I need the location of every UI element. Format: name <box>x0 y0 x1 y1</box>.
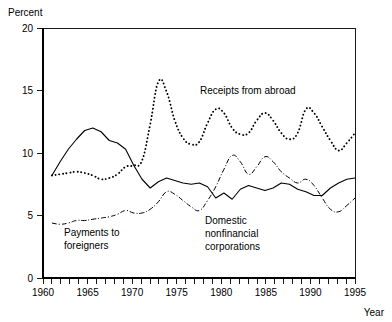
annotation-domestic-line1: Domestic <box>205 215 247 226</box>
y-tick-label-15: 15 <box>22 85 34 96</box>
x-tick-label-1990: 1990 <box>299 287 322 298</box>
x-tick-label-1980: 1980 <box>210 287 233 298</box>
y-axis: 0 5 10 15 20 Percent <box>8 7 43 284</box>
x-tick-label-1960: 1960 <box>32 287 55 298</box>
annotation-payments-to-foreigners-line1: Payments to <box>64 227 120 238</box>
x-tick-label-1985: 1985 <box>255 287 278 298</box>
y-tick-label-10: 10 <box>22 148 34 159</box>
series-line-payments-to-foreigners <box>52 155 355 224</box>
x-tick-label-1995: 1995 <box>344 287 367 298</box>
series-line-domestic-nonfinancial-corporations <box>52 128 355 199</box>
annotation-domestic-line3: corporations <box>205 241 260 252</box>
y-tick-label-0: 0 <box>27 273 33 284</box>
y-axis-title: Percent <box>8 7 43 18</box>
y-tick-label-5: 5 <box>27 210 33 221</box>
annotation-domestic-line2: nonfinancial <box>205 228 258 239</box>
data-series-group <box>52 79 355 224</box>
x-axis: 1960 1965 1970 1975 1980 1985 1990 1995 … <box>32 278 385 318</box>
x-axis-title: Year <box>364 307 385 318</box>
x-tick-label-1965: 1965 <box>76 287 99 298</box>
x-tick-label-1970: 1970 <box>121 287 144 298</box>
line-chart-svg: 0 5 10 15 20 Percent <box>0 0 392 322</box>
series-annotations: Receipts from abroad Payments to foreign… <box>64 85 296 252</box>
annotation-receipts-from-abroad: Receipts from abroad <box>200 85 296 96</box>
annotation-payments-to-foreigners-line2: foreigners <box>64 240 108 251</box>
x-minor-ticks <box>43 278 355 284</box>
chart-figure: 0 5 10 15 20 Percent <box>0 0 392 322</box>
x-tick-label-1975: 1975 <box>166 287 189 298</box>
y-tick-label-20: 20 <box>22 23 34 34</box>
